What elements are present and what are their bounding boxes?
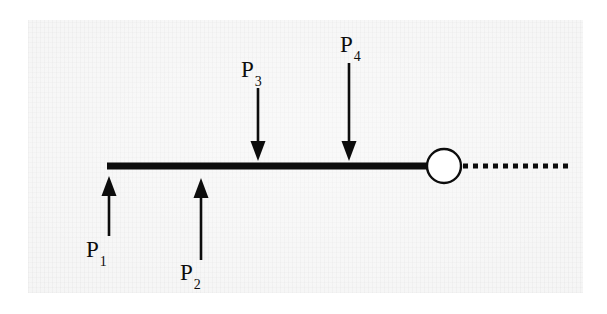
force-label-p3: P3 [241, 58, 261, 86]
force-label-p4: P4 [340, 33, 360, 61]
figure-root: P1P2P3P4 [0, 0, 607, 314]
force-label-base-p3: P [241, 57, 254, 82]
force-label-subscript-p3: 3 [255, 74, 262, 89]
end-circle-joint [427, 149, 461, 183]
force-arrow-head-p3 [251, 141, 266, 161]
diagram-svg [0, 0, 607, 314]
force-arrow-group [102, 63, 357, 260]
force-arrow-head-p1 [102, 176, 117, 196]
force-label-p2: P2 [180, 261, 200, 289]
force-arrow-head-p4 [342, 141, 357, 161]
beam [107, 163, 431, 170]
force-label-subscript-p4: 4 [354, 49, 361, 64]
force-arrow-head-p2 [194, 178, 209, 198]
force-label-subscript-p1: 1 [100, 254, 107, 269]
force-label-base-p1: P [86, 237, 99, 262]
force-label-base-p2: P [180, 260, 193, 285]
force-label-subscript-p2: 2 [194, 277, 201, 292]
force-label-p1: P1 [86, 238, 106, 266]
force-label-base-p4: P [340, 32, 353, 57]
